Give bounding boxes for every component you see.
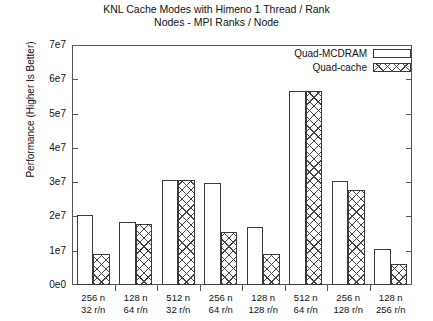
bar-group: [285, 45, 328, 285]
x-axis-separator: [327, 285, 328, 291]
bar-quad-cache: [178, 180, 195, 285]
legend-label: Quad-MCDRAM: [294, 48, 367, 59]
y-axis-tick-label: 1e7: [20, 246, 66, 256]
bar-quad-cache: [221, 232, 238, 285]
chart-legend: Quad-MCDRAM Quad-cache: [294, 46, 411, 74]
bar-quad-mcdram: [374, 249, 391, 285]
y-axis-tick-label: 0e0: [20, 280, 66, 290]
legend-item-quad-mcdram: Quad-MCDRAM: [294, 46, 411, 60]
bar-quad-cache: [263, 254, 280, 285]
bar-quad-cache: [136, 224, 153, 285]
bar-quad-mcdram: [204, 183, 221, 285]
x-axis-separator: [285, 285, 286, 291]
bar-quad-mcdram: [162, 180, 179, 285]
bar-quad-cache: [306, 91, 323, 285]
x-axis-separator: [157, 285, 158, 291]
bar-group: [242, 45, 285, 285]
bar-quad-mcdram: [119, 222, 136, 285]
bar-quad-cache: [93, 254, 110, 285]
y-axis-tick-label: 2e7: [20, 211, 66, 221]
bar-quad-mcdram: [289, 91, 306, 285]
y-axis-tick-label: 3e7: [20, 177, 66, 187]
y-axis-tick-label: 4e7: [20, 143, 66, 153]
y-axis-tick-label: 7e7: [20, 40, 66, 50]
x-axis-separator: [200, 285, 201, 291]
chart-title: KNL Cache Modes with Himeno 1 Thread / R…: [0, 3, 433, 16]
legend-swatch-hollow-icon: [373, 49, 411, 58]
bar-quad-cache: [348, 190, 365, 285]
legend-swatch-hatch-icon: [373, 63, 411, 72]
y-axis-tick-label: 5e7: [20, 109, 66, 119]
bar-quad-cache: [391, 264, 408, 285]
bar-group: [370, 45, 413, 285]
bar-group: [327, 45, 370, 285]
bar-chart: KNL Cache Modes with Himeno 1 Thread / R…: [0, 0, 433, 321]
bars-layer: [72, 45, 412, 285]
legend-label: Quad-cache: [313, 62, 367, 73]
bar-group: [72, 45, 115, 285]
y-axis-tick-label: 6e7: [20, 74, 66, 84]
x-axis-tick-label-nodes: 128 n: [363, 292, 419, 304]
x-axis-separator: [242, 285, 243, 291]
bar-group: [200, 45, 243, 285]
x-axis-tick-label-ranks: 256 r/n: [363, 304, 419, 316]
chart-title-block: KNL Cache Modes with Himeno 1 Thread / R…: [0, 3, 433, 29]
bar-group: [115, 45, 158, 285]
bar-quad-mcdram: [77, 215, 94, 285]
bar-group: [157, 45, 200, 285]
bar-quad-mcdram: [247, 227, 264, 285]
bar-quad-mcdram: [332, 181, 349, 285]
legend-item-quad-cache: Quad-cache: [294, 60, 411, 74]
x-axis-separator: [115, 285, 116, 291]
x-axis-tick-label: 128 n256 r/n: [363, 292, 419, 315]
chart-subtitle: Nodes - MPI Ranks / Node: [0, 16, 433, 29]
x-axis-separator: [370, 285, 371, 291]
